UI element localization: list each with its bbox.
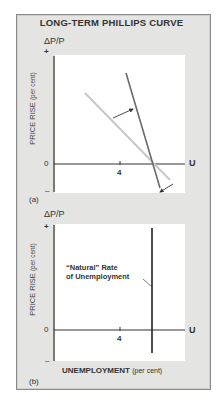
short-run-phillips-curve bbox=[85, 93, 170, 180]
long-run-shifted-curve bbox=[126, 73, 160, 188]
annotation-leader-line bbox=[143, 279, 152, 287]
rotation-arrow-upper bbox=[113, 109, 133, 118]
rotation-arrow-lower bbox=[160, 184, 173, 192]
chart-graphics bbox=[0, 0, 223, 407]
